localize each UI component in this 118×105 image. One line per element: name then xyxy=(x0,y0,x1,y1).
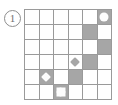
grid-cell[interactable] xyxy=(54,10,69,25)
grid-cell[interactable] xyxy=(40,55,55,70)
grid-cell[interactable] xyxy=(83,70,98,85)
grid-cell[interactable] xyxy=(25,55,40,70)
grid-cell[interactable] xyxy=(40,25,55,40)
grid-cell[interactable] xyxy=(69,85,84,100)
grid-cell[interactable] xyxy=(54,55,69,70)
grid-cell[interactable] xyxy=(98,55,113,70)
grid-cell[interactable] xyxy=(54,40,69,55)
figure-number-badge: 1 xyxy=(4,10,21,27)
grid-cell[interactable] xyxy=(40,85,55,100)
diamond-piece-icon[interactable] xyxy=(41,72,51,82)
grid-cell[interactable] xyxy=(69,25,84,40)
grid-cell[interactable] xyxy=(98,70,113,85)
circle-piece-icon[interactable] xyxy=(100,13,109,22)
grid-cell[interactable] xyxy=(25,25,40,40)
grid-cell[interactable] xyxy=(54,70,69,85)
diamond-piece-icon[interactable] xyxy=(70,57,80,67)
grid-cell[interactable] xyxy=(98,25,113,40)
grid-cell[interactable] xyxy=(25,10,40,25)
grid-cell[interactable] xyxy=(69,10,84,25)
puzzle-grid[interactable] xyxy=(24,9,112,100)
grid-cell[interactable] xyxy=(69,70,84,85)
grid-cell[interactable] xyxy=(40,10,55,25)
grid-cell[interactable] xyxy=(98,10,113,25)
clover-piece-icon[interactable] xyxy=(56,88,65,97)
grid-cell[interactable] xyxy=(83,55,98,70)
grid-cell[interactable] xyxy=(83,25,98,40)
grid-cell[interactable] xyxy=(25,85,40,100)
grid-cell[interactable] xyxy=(69,55,84,70)
grid-cell[interactable] xyxy=(54,25,69,40)
grid-cell[interactable] xyxy=(98,40,113,55)
grid-cell[interactable] xyxy=(40,40,55,55)
grid-cell[interactable] xyxy=(25,40,40,55)
grid-cell[interactable] xyxy=(25,70,40,85)
grid-cell[interactable] xyxy=(69,40,84,55)
grid-cell[interactable] xyxy=(83,10,98,25)
grid-cell[interactable] xyxy=(54,85,69,100)
grid-cell[interactable] xyxy=(98,85,113,100)
grid-cell[interactable] xyxy=(40,70,55,85)
grid-cell[interactable] xyxy=(83,85,98,100)
grid-cell[interactable] xyxy=(83,40,98,55)
